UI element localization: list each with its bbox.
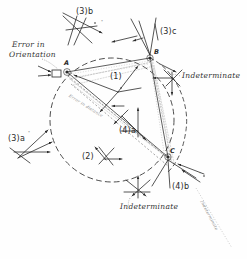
cluster-1-marker [120, 87, 122, 89]
error-orientation-leader [42, 59, 58, 69]
diagram-vector-layer [0, 0, 247, 259]
vector-cluster-3c [112, 18, 158, 55]
vector-cluster-indeterminate-right [153, 64, 182, 95]
vector-cluster-3a [10, 130, 52, 163]
vector-cluster-2 [95, 147, 122, 165]
cluster-3b-marker [94, 22, 96, 24]
vector-cluster-3b [63, 13, 102, 45]
point-a-node [38, 66, 70, 77]
vector-cluster-indeterminate-bottom [124, 176, 150, 198]
outer-arc-bc [150, 58, 187, 172]
lower-right-dotted-tail [196, 188, 232, 248]
indeterminate-bottom-leader [128, 198, 130, 207]
triangle-abc [67, 58, 168, 157]
vector-cluster-4b [152, 160, 204, 188]
cluster-4b-marker [203, 175, 205, 177]
diagram-canvas: A B C (1) (2) (3)a (3)b (3)c (4)a (4)b °… [0, 0, 247, 259]
displaced-triangle [70, 62, 171, 160]
